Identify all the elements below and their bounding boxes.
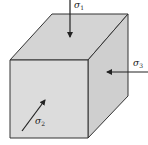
- stress-cube-diagram: σ1 σ3 σ2: [0, 0, 148, 145]
- sigma3-label: σ3: [133, 58, 143, 69]
- sigma1-label: σ1: [74, 0, 84, 11]
- cube-front-face: [10, 60, 88, 138]
- cube-figure: σ1 σ3 σ2: [0, 0, 148, 145]
